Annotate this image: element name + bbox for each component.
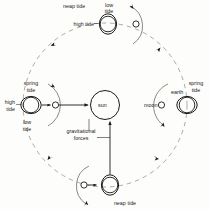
sun-label: sun <box>98 102 107 108</box>
moon-bottom <box>81 182 87 188</box>
moon-label: moon <box>144 102 158 108</box>
high-tide-label-left-line2: tide <box>0 106 15 112</box>
earth-top <box>99 14 116 34</box>
spring-tide-label-left-line2: tide <box>14 87 48 93</box>
spring-tide-label-right-line1: spring <box>182 80 210 86</box>
moon-orbit-arrow-left <box>50 83 55 88</box>
high-tide-label-left-line1: high <box>0 99 15 105</box>
gravitational-forces-label-line2: forces <box>58 135 104 141</box>
low-tide-label-top-line1: low <box>99 2 119 8</box>
earth-bottom <box>101 175 118 195</box>
tide-diagram: sun moon earth gravitational forces neap… <box>0 0 210 209</box>
gravitational-forces-label-line1: gravitational <box>58 128 104 134</box>
high-tide-label-top: high tide <box>62 21 94 27</box>
neap-tide-label-top: neap tide <box>63 3 85 9</box>
low-tide-label-top-line2: tide <box>99 8 119 14</box>
earth-left <box>21 96 41 113</box>
moon-top <box>133 21 139 27</box>
spring-tide-label-left-line1: spring <box>14 80 48 86</box>
spring-tide-label-right-line2: tide <box>182 87 210 93</box>
low-tide-label-left-line2: tide <box>15 126 39 132</box>
low-tide-label-left-line1: low <box>15 119 39 125</box>
moon-left <box>52 102 58 108</box>
neap-tide-label-bottom: neap tide <box>105 200 145 206</box>
moon-right <box>158 102 164 108</box>
